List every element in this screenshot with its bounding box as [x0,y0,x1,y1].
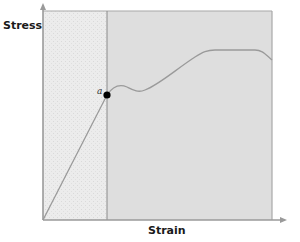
yield-point-marker [103,91,110,98]
x-axis-label: Strain [148,224,186,237]
yield-point-label: a [97,86,102,96]
x-axis-arrow-icon [280,217,287,223]
y-axis-label: Stress [3,19,42,32]
y-axis-arrow-icon [40,3,46,10]
elastic-region [43,11,107,220]
plastic-region [107,11,272,220]
stress-strain-diagram [0,0,300,242]
